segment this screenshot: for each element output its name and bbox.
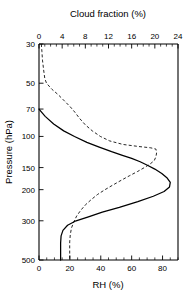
top-tick-label: 0 [37,32,42,41]
top-tick-label: 24 [174,32,183,41]
left-tick-label: 200 [22,186,36,195]
bottom-tick-label: 60 [127,264,136,273]
left-tick-label: 70 [26,105,35,114]
profile-plot: Cloud fraction (%) RH (%) Pressure (hPa)… [0,0,195,304]
left-tick-label: 300 [22,217,36,226]
bottom-tick-label: 20 [65,264,74,273]
top-tick-label: 16 [127,32,136,41]
chart-figure: Cloud fraction (%) RH (%) Pressure (hPa)… [0,0,195,304]
left-tick-label: 50 [26,79,35,88]
left-tick-label: 150 [22,164,36,173]
left-tick-label: 30 [26,40,35,49]
left-tick-label: 500 [22,256,36,265]
bottom-axis-title: RH (%) [92,279,123,290]
top-axis-title: Cloud fraction (%) [70,8,146,19]
left-axis-title: Pressure (hPa) [3,120,14,184]
top-tick-label: 4 [60,32,65,41]
bottom-tick-label: 0 [37,264,42,273]
bottom-tick-label: 80 [158,264,167,273]
top-tick-label: 8 [83,32,88,41]
bottom-tick-label: 40 [96,264,105,273]
left-tick-label: 100 [22,132,36,141]
top-tick-label: 12 [104,32,113,41]
top-tick-label: 20 [150,32,159,41]
